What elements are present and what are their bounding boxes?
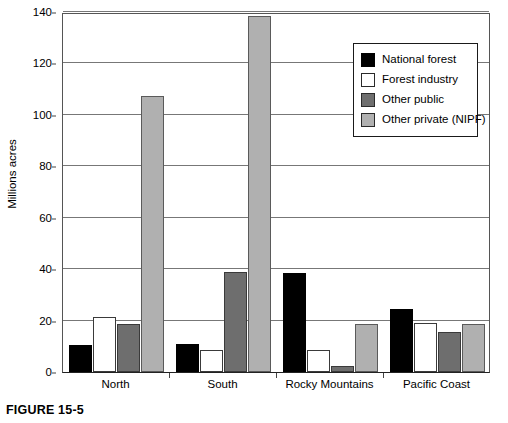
bar xyxy=(200,350,223,372)
x-category-label: Pacific Coast xyxy=(403,378,470,390)
bar-group xyxy=(176,14,271,372)
legend-item: National forest xyxy=(361,50,470,70)
x-axis-category-labels: NorthSouthRocky MountainsPacific Coast xyxy=(62,378,490,398)
bar xyxy=(331,366,354,372)
legend-label: Other public xyxy=(382,94,444,106)
legend-label: Other private (NIPF) xyxy=(382,114,486,126)
bar xyxy=(462,324,485,372)
y-tick-mark-100 xyxy=(52,115,56,116)
y-tick-label-20: 20 xyxy=(0,316,52,328)
x-tick-mark xyxy=(276,373,277,378)
y-tick-label-40: 40 xyxy=(0,264,52,276)
bar xyxy=(414,323,437,372)
bar xyxy=(69,345,92,372)
legend-item: Forest industry xyxy=(361,70,470,90)
legend-swatch-icon xyxy=(361,53,375,67)
bar xyxy=(390,309,413,372)
bar xyxy=(93,317,116,372)
bar xyxy=(141,96,164,372)
legend-label: Forest industry xyxy=(382,74,458,86)
bar xyxy=(117,324,140,372)
bar xyxy=(224,272,247,372)
bar-group xyxy=(69,14,164,372)
y-tick-mark-40 xyxy=(52,270,56,271)
y-tick-label-140: 140 xyxy=(0,7,52,19)
legend-swatch-icon xyxy=(361,73,375,87)
y-tick-mark-60 xyxy=(52,218,56,219)
chart-legend: National forestForest industryOther publ… xyxy=(353,43,478,137)
y-tick-label-0: 0 xyxy=(0,367,52,379)
legend-item: Other public xyxy=(361,90,470,110)
y-tick-mark-120 xyxy=(52,64,56,65)
bar xyxy=(248,16,271,372)
legend-label: National forest xyxy=(382,54,456,66)
y-tick-mark-20 xyxy=(52,321,56,322)
bar xyxy=(176,344,199,372)
x-tick-mark xyxy=(169,373,170,378)
y-tick-label-120: 120 xyxy=(0,59,52,71)
x-tick-mark xyxy=(383,373,384,378)
bar xyxy=(355,324,378,372)
x-category-label: North xyxy=(101,378,129,390)
gridline-140 xyxy=(63,11,489,12)
bar xyxy=(283,273,306,372)
legend-item: Other private (NIPF) xyxy=(361,110,470,130)
figure-container: 020406080100120140 Millions acres NorthS… xyxy=(0,0,508,423)
y-tick-mark-80 xyxy=(52,167,56,168)
y-axis-title: Millions acres xyxy=(6,114,18,234)
bar xyxy=(307,350,330,372)
bar xyxy=(438,332,461,372)
x-category-label: Rocky Mountains xyxy=(285,378,373,390)
x-category-label: South xyxy=(207,378,237,390)
legend-swatch-icon xyxy=(361,113,375,127)
y-tick-mark-140 xyxy=(52,13,56,14)
y-tick-mark-0 xyxy=(52,373,56,374)
figure-caption: FIGURE 15-5 xyxy=(6,403,84,417)
legend-swatch-icon xyxy=(361,93,375,107)
